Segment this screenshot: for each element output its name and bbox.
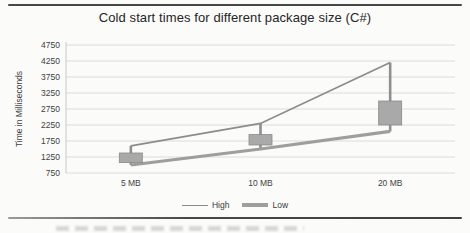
x-tick-label: 20 MB: [378, 178, 403, 188]
legend-item-high: High: [182, 200, 229, 210]
y-tick-label: 4250: [41, 56, 60, 66]
legend-label-low: Low: [272, 200, 288, 210]
bottom-border-rule: [8, 217, 462, 219]
y-tick-label: 4750: [41, 40, 60, 50]
high-line-swatch: [182, 205, 208, 206]
y-tick-label: 750: [46, 168, 60, 178]
y-tick-label: 1250: [41, 152, 60, 162]
plot-area: 475042503750325027502250175012507505 MB1…: [0, 0, 470, 233]
up-down-bar: [379, 101, 402, 125]
x-tick-label: 5 MB: [121, 178, 141, 188]
cutoff-caption-artifact: [56, 226, 304, 231]
up-down-bar: [119, 153, 142, 163]
y-tick-label: 3250: [41, 88, 60, 98]
up-down-bar: [249, 135, 272, 145]
chart-legend: High Low: [0, 200, 470, 210]
low-line-swatch: [242, 203, 268, 207]
legend-item-low: Low: [242, 200, 288, 210]
y-tick-label: 2250: [41, 120, 60, 130]
y-tick-label: 1750: [41, 136, 60, 146]
y-tick-label: 2750: [41, 104, 60, 114]
x-tick-label: 10 MB: [248, 178, 273, 188]
legend-label-high: High: [212, 200, 229, 210]
scanned-figure-page: Cold start times for different package s…: [0, 0, 470, 233]
y-tick-label: 3750: [41, 72, 60, 82]
